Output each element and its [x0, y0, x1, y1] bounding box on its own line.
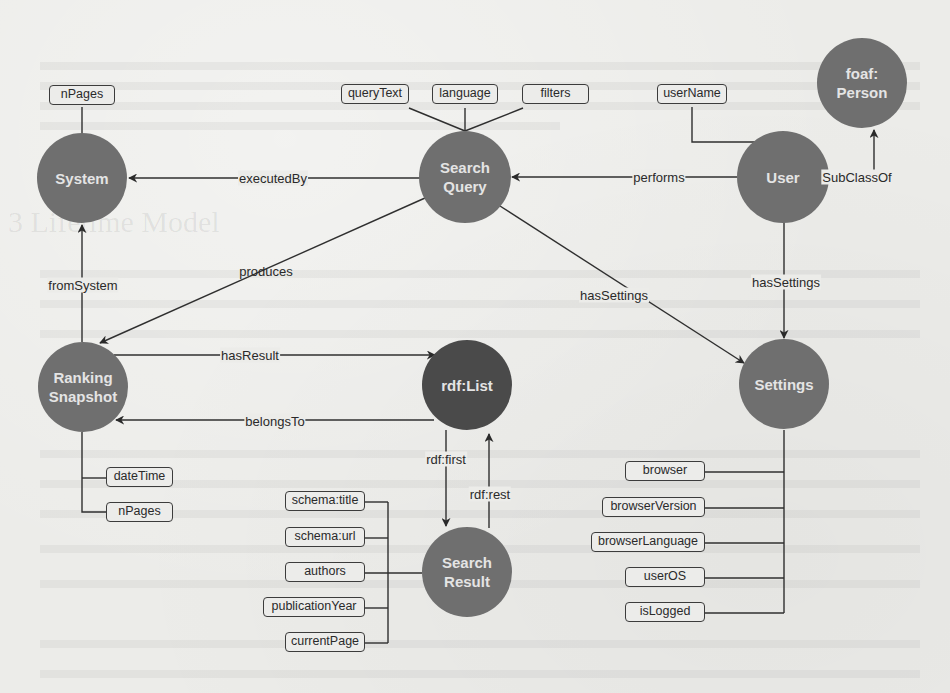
label-rdf-rest: rdf:rest: [469, 487, 511, 502]
attr-settings-browser-version: browserVersion: [602, 497, 705, 517]
label-has-settings-user: hasSettings: [751, 275, 821, 290]
attr-snapshot-datetime: dateTime: [106, 467, 173, 487]
node-search-query: Search Query: [419, 131, 511, 223]
node-system: System: [37, 133, 127, 223]
attr-result-url: schema:url: [285, 527, 365, 547]
attr-result-publication-year: publicationYear: [263, 597, 365, 617]
attr-result-authors: authors: [285, 562, 365, 582]
node-search-result: Search Result: [422, 527, 512, 617]
attr-user-username: userName: [657, 84, 727, 104]
attr-result-current-page: currentPage: [285, 632, 365, 652]
label-performs: performs: [632, 170, 685, 185]
node-ranking-snapshot: Ranking Snapshot: [38, 342, 128, 432]
attr-settings-browser-language: browserLanguage: [591, 532, 705, 552]
attr-query-filters: filters: [522, 84, 589, 104]
attr-snapshot-npages: nPages: [106, 502, 173, 522]
label-from-system: fromSystem: [47, 278, 118, 293]
edge-query-querytext: [409, 108, 465, 131]
label-belongs-to: belongsTo: [244, 414, 305, 429]
node-rdf-list: rdf:List: [422, 340, 512, 430]
edge-user-username: [692, 107, 756, 142]
edge-query-filters: [465, 108, 523, 131]
label-has-settings-query: hasSettings: [579, 288, 649, 303]
label-subclass-of: SubClassOf: [821, 170, 892, 185]
node-foaf-person: foaf: Person: [817, 38, 907, 128]
label-produces: produces: [238, 264, 293, 279]
attr-query-language: language: [432, 84, 498, 104]
attr-query-text: queryText: [341, 84, 409, 104]
edge-snapshot-attrs: [82, 432, 106, 512]
label-executed-by: executedBy: [238, 171, 308, 186]
attr-settings-browser: browser: [625, 461, 705, 481]
attr-settings-is-logged: isLogged: [625, 602, 705, 622]
node-settings: Settings: [739, 339, 829, 429]
node-user: User: [737, 131, 829, 223]
edge-has-settings-query: [500, 206, 744, 363]
attr-settings-user-os: userOS: [625, 567, 705, 587]
attr-system-npages: nPages: [49, 85, 115, 105]
label-rdf-first: rdf:first: [425, 452, 467, 467]
label-has-result: hasResult: [220, 348, 280, 363]
attr-result-title: schema:title: [285, 491, 365, 511]
